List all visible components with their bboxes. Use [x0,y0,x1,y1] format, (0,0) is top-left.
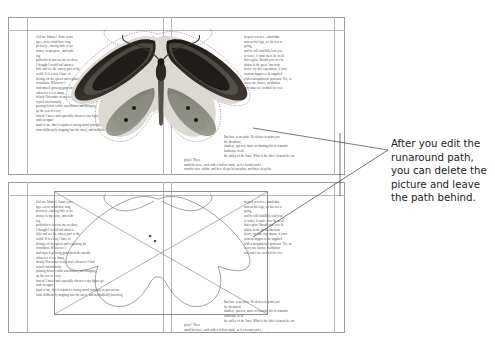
callout-line-3: you can delete the [391,164,493,178]
butterfly-abdomen [158,81,164,126]
callout-line-2: runaround path, [391,151,493,165]
path-control-point [149,235,156,242]
callout-line-4: picture and leave [391,178,493,192]
text-column-full-width: ploys? There stand his trees, each with … [184,323,345,333]
panel-page-with-path-only: Call me Ishmael. Some years ago—never mi… [8,182,345,333]
illustration-stage: Call me Ishmael. Some years ago—never mi… [0,0,495,345]
butterfly-picture[interactable] [54,26,268,150]
callout-annotation: After you edit the runaround path, you c… [391,137,493,205]
guide-left-margin [27,182,28,333]
text-column-full-width: ploys? There stand his trees, each with … [184,158,345,172]
callout-line-5: the path behind. [391,191,493,205]
runaround-path-outline[interactable] [54,191,268,315]
panel-page-with-picture: Call me Ishmael. Some years ago—never mi… [8,17,345,175]
callout-line-1: After you edit the [391,137,493,151]
guide-left-margin [27,17,28,175]
